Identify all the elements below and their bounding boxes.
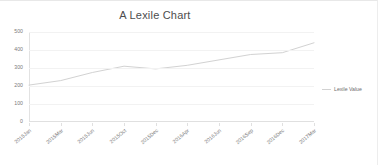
x-tick-label: 2017Mar <box>294 128 317 149</box>
y-tick-label: 0 <box>20 119 23 124</box>
x-tick-label: 2015Dec <box>136 128 159 149</box>
x-tick <box>124 123 125 126</box>
legend-label-lexile-value: Lexile Value <box>334 87 362 92</box>
chart-title: A Lexile Chart <box>0 9 310 21</box>
y-tick-label: 100 <box>14 101 23 106</box>
x-tick <box>61 123 62 126</box>
x-axis: 2015Jan2015Mar2015Jun2015Oct2015Dec2016A… <box>29 123 314 163</box>
plot-area <box>29 32 314 122</box>
x-tick <box>314 123 315 126</box>
x-tick-label: 2015Mar <box>41 128 64 149</box>
gridline <box>29 32 314 33</box>
chart-legend: Lexile Value <box>322 87 362 92</box>
x-tick <box>251 123 252 126</box>
legend-line-swatch <box>322 89 331 90</box>
x-tick <box>219 123 220 126</box>
x-tick-label: 2016Sep <box>231 128 254 149</box>
line-series-svg <box>29 32 314 122</box>
x-tick-label: 2016Dec <box>262 128 285 149</box>
x-tick-label: 2015Oct <box>104 128 127 149</box>
x-tick <box>29 123 30 126</box>
gridline <box>29 50 314 51</box>
y-tick-label: 200 <box>14 83 23 88</box>
y-tick-label: 500 <box>14 29 23 34</box>
x-tick-label: 2015Jan <box>9 128 32 149</box>
x-tick-label: 2015Jun <box>72 128 95 149</box>
y-tick-label: 300 <box>14 65 23 70</box>
gridline <box>29 104 314 105</box>
x-tick <box>92 123 93 126</box>
x-tick-label: 2016Apr <box>167 128 190 149</box>
x-tick-label: 2016Jun <box>199 128 222 149</box>
x-tick <box>282 123 283 126</box>
y-axis: 0100200300400500 <box>0 32 26 122</box>
gridline <box>29 86 314 87</box>
gridline <box>29 68 314 69</box>
x-tick <box>187 123 188 126</box>
chart-container: A Lexile Chart 0100200300400500 2015Jan2… <box>0 0 378 165</box>
y-tick-label: 400 <box>14 47 23 52</box>
x-tick <box>156 123 157 126</box>
